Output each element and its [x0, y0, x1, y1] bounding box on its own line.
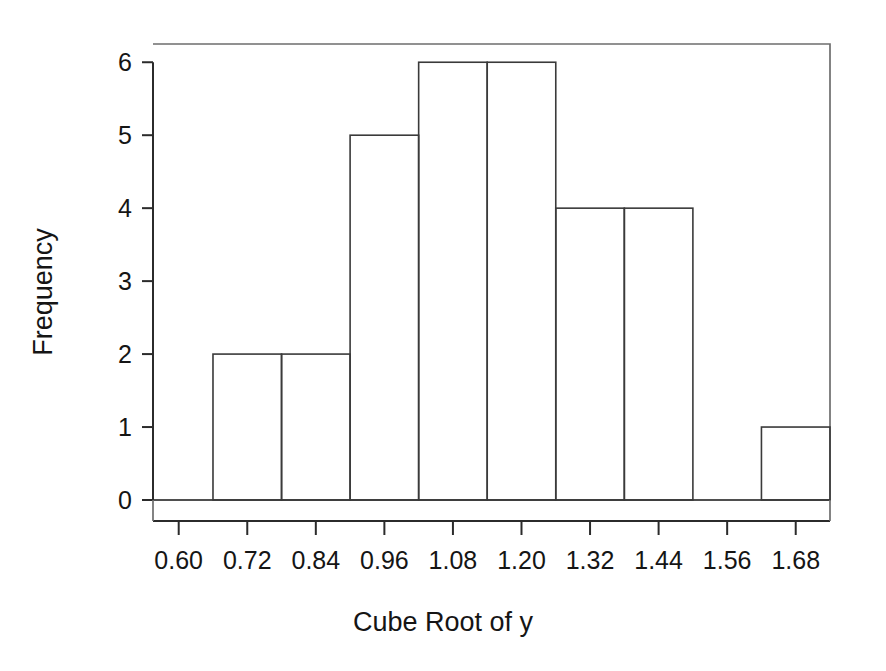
y-axis-tick-label: 2 [118, 340, 132, 368]
plot-frame [153, 44, 830, 500]
y-axis [142, 62, 153, 500]
histogram-plot: 0123456 0.600.720.840.961.081.201.321.44… [0, 0, 886, 671]
x-axis-tick-label: 1.56 [703, 546, 752, 574]
histogram-bar [624, 208, 693, 500]
x-axis-tick-label: 1.08 [429, 546, 478, 574]
x-axis-tick-labels: 0.600.720.840.961.081.201.321.441.561.68 [154, 546, 820, 574]
y-axis-tick-label: 5 [118, 121, 132, 149]
x-axis-tick-label: 0.84 [291, 546, 340, 574]
y-axis-tick-label: 1 [118, 413, 132, 441]
x-axis-tick-label: 1.20 [497, 546, 546, 574]
x-axis [153, 500, 830, 535]
histogram-bar [350, 135, 419, 500]
y-axis-tick-label: 3 [118, 267, 132, 295]
histogram-bar [487, 62, 556, 500]
x-axis-tick-label: 1.32 [566, 546, 615, 574]
y-axis-tick-labels: 0123456 [118, 48, 132, 514]
x-axis-tick-label: 0.96 [360, 546, 409, 574]
histogram-bar [282, 354, 351, 500]
histogram-bars [153, 62, 830, 500]
histogram-bar [213, 354, 282, 500]
histogram-screenshot: 0123456 0.600.720.840.961.081.201.321.44… [0, 0, 886, 671]
y-axis-tick-label: 6 [118, 48, 132, 76]
y-axis-tick-label: 0 [118, 486, 132, 514]
y-axis-title: Frequency [28, 228, 58, 356]
y-axis-tick-label: 4 [118, 194, 132, 222]
histogram-bar [556, 208, 625, 500]
x-axis-tick-label: 0.72 [223, 546, 272, 574]
histogram-bar [761, 427, 830, 500]
x-axis-tick-label: 1.68 [771, 546, 820, 574]
x-axis-tick-label: 1.44 [634, 546, 683, 574]
x-axis-title: Cube Root of y [353, 607, 534, 637]
x-axis-tick-label: 0.60 [154, 546, 203, 574]
histogram-bar [419, 62, 488, 500]
